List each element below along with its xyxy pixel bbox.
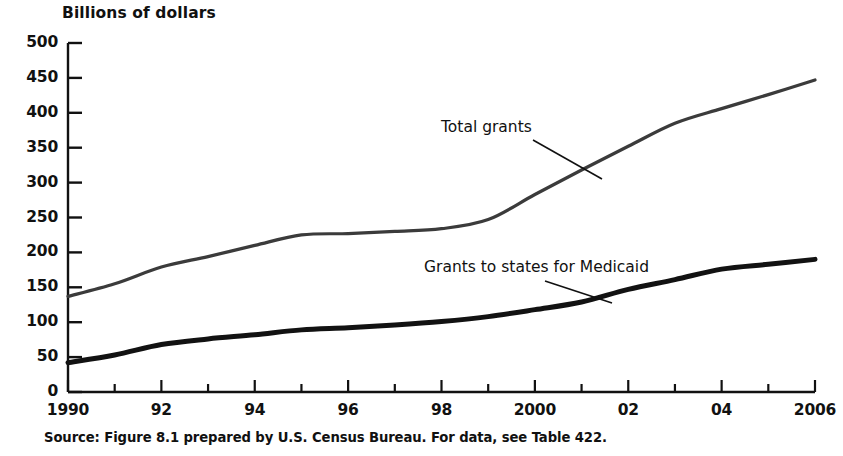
x-tick-label: 94 xyxy=(244,401,265,419)
y-tick-label: 250 xyxy=(6,208,58,226)
x-tick-label: 2000 xyxy=(514,401,556,419)
leader-line-medicaid xyxy=(545,281,612,303)
figure-grants-chart: Billions of dollars 05010015020025030035… xyxy=(0,0,843,456)
x-tick-label: 2006 xyxy=(794,401,836,419)
x-tick-label: 98 xyxy=(431,401,452,419)
y-tick-label: 500 xyxy=(6,33,58,51)
annotation-leader-lines xyxy=(533,140,612,303)
y-axis-title: Billions of dollars xyxy=(62,4,216,22)
source-note: Source: Figure 8.1 prepared by U.S. Cens… xyxy=(44,430,607,445)
y-tick-label: 300 xyxy=(6,173,58,191)
y-tick-label: 350 xyxy=(6,138,58,156)
y-tick-label: 50 xyxy=(6,347,58,365)
x-tick-label: 92 xyxy=(151,401,172,419)
leader-line-total-grants xyxy=(533,140,602,179)
y-tick-label: 450 xyxy=(6,68,58,86)
x-tick-label: 96 xyxy=(338,401,359,419)
y-tick-label: 400 xyxy=(6,103,58,121)
series-label-total-grants: Total grants xyxy=(441,118,532,136)
series-label-medicaid: Grants to states for Medicaid xyxy=(424,258,649,276)
y-tick-label: 0 xyxy=(6,382,58,400)
x-tick-label: 04 xyxy=(711,401,732,419)
x-tick-label: 02 xyxy=(618,401,639,419)
chart-plot-area xyxy=(0,0,843,456)
x-tick-label: 1990 xyxy=(47,401,89,419)
y-tick-label: 150 xyxy=(6,277,58,295)
y-tick-label: 100 xyxy=(6,312,58,330)
y-tick-label: 200 xyxy=(6,242,58,260)
